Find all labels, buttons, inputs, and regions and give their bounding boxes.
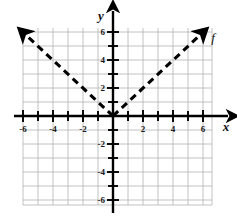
- x-tick-label-4: 4: [171, 124, 176, 134]
- x-tick-label-neg2: -2: [79, 124, 87, 134]
- curve-label-f: f: [211, 30, 217, 45]
- y-tick-label-neg6: -6: [98, 195, 106, 205]
- graph-right-branch: [113, 37, 198, 116]
- x-tick-label-neg4: -4: [49, 124, 57, 134]
- y-tick-label-6: 6: [101, 27, 106, 37]
- graph-left-branch: [28, 37, 113, 116]
- y-tick-label-4: 4: [101, 55, 106, 65]
- x-tick-label-2: 2: [141, 124, 146, 134]
- graph-screenshot: -6 -4 -2 2 4 6 6 4 2 -2 -4 -6 y x f: [0, 0, 237, 222]
- x-tick-label-neg6: -6: [19, 124, 27, 134]
- y-axis-label: y: [96, 8, 104, 23]
- coordinate-plane-figure: -6 -4 -2 2 4 6 6 4 2 -2 -4 -6 y x f: [0, 0, 237, 222]
- y-tick-label-2: 2: [101, 83, 106, 93]
- y-tick-label-neg2: -2: [98, 139, 106, 149]
- y-tick-label-neg4: -4: [98, 167, 106, 177]
- x-axis-label: x: [222, 119, 230, 134]
- x-tick-label-6: 6: [201, 124, 206, 134]
